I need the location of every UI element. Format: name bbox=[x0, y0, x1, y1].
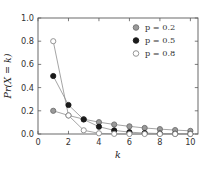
y-tick-label: 0.6 bbox=[21, 59, 34, 69]
legend-marker-2 bbox=[133, 51, 139, 57]
legend-marker-0 bbox=[133, 25, 139, 31]
x-tick-label: 6 bbox=[127, 137, 132, 147]
chart-canvas: 02468100.00.20.40.60.81.0kPr(X = k)p = 0… bbox=[0, 0, 207, 176]
data-point bbox=[173, 131, 178, 136]
y-tick-label: 0.4 bbox=[21, 83, 34, 93]
y-tick-label: 0.2 bbox=[21, 106, 34, 116]
data-point bbox=[157, 131, 162, 136]
data-point bbox=[51, 73, 56, 78]
geometric-distribution-chart: 02468100.00.20.40.60.81.0kPr(X = k)p = 0… bbox=[0, 0, 207, 176]
x-tick-label: 0 bbox=[35, 137, 40, 147]
legend-label-1: p = 0.5 bbox=[145, 35, 175, 45]
data-point bbox=[81, 128, 86, 133]
y-axis-label: Pr(X = k) bbox=[2, 53, 13, 99]
data-point bbox=[96, 131, 101, 136]
legend-marker-1 bbox=[133, 38, 139, 44]
data-point bbox=[51, 39, 56, 44]
legend-label-0: p = 0.2 bbox=[145, 22, 175, 32]
data-point bbox=[142, 125, 147, 130]
data-point bbox=[81, 117, 86, 122]
data-point bbox=[188, 131, 193, 136]
x-tick-label: 4 bbox=[96, 137, 101, 147]
x-tick-label: 2 bbox=[66, 137, 71, 147]
data-point bbox=[66, 113, 71, 118]
y-tick-label: 0.8 bbox=[21, 36, 34, 46]
x-axis-label: k bbox=[115, 149, 121, 160]
data-point bbox=[51, 108, 56, 113]
data-point bbox=[96, 124, 101, 129]
data-point bbox=[112, 131, 117, 136]
x-tick-label: 10 bbox=[185, 137, 195, 147]
y-tick-label: 0.0 bbox=[21, 129, 34, 139]
data-point bbox=[112, 122, 117, 127]
legend-label-2: p = 0.8 bbox=[145, 48, 175, 58]
x-tick-label: 8 bbox=[157, 137, 162, 147]
y-tick-label: 1.0 bbox=[21, 13, 34, 23]
data-point bbox=[127, 131, 132, 136]
data-point bbox=[66, 102, 71, 107]
data-point bbox=[142, 131, 147, 136]
data-point bbox=[127, 124, 132, 129]
